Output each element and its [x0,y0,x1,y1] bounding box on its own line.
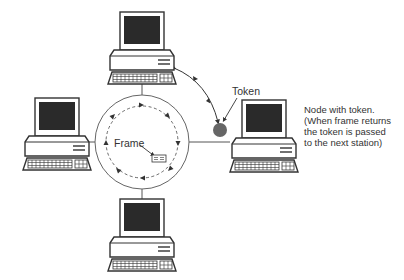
token-pointer [224,98,237,120]
description-line: (When frame returns [304,115,391,126]
token-pass-arc [174,68,218,122]
computer-icon-left [23,98,91,170]
token-node-description: Node with token. (When frame returns the… [304,104,391,148]
description-line: to the next station) [304,137,391,148]
frame-label: Frame [114,138,144,150]
token-label: Token [232,86,260,98]
description-line: the token is passed [304,126,391,137]
description-line: Node with token. [304,104,391,115]
computer-icon-top [108,12,176,84]
frame-icon [152,155,166,162]
token-icon [213,123,227,137]
computer-icon-bottom [108,199,176,271]
computer-icon-right [230,100,298,172]
